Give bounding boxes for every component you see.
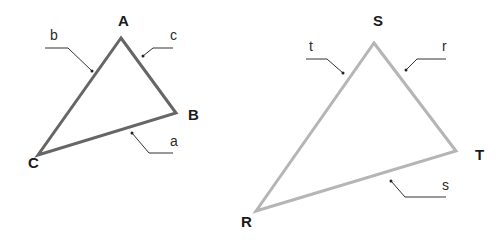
leader-dot-s — [390, 180, 393, 183]
side-label-t: t — [309, 38, 313, 54]
leader-line-b — [45, 48, 92, 71]
vertex-label-r: R — [241, 213, 252, 230]
vertex-label-a: A — [118, 12, 129, 29]
leader-line-t — [306, 59, 343, 73]
vertex-label-c: C — [28, 154, 39, 171]
leader-line-c — [143, 48, 173, 56]
side-label-b: b — [50, 27, 58, 43]
vertex-label-b: B — [188, 106, 199, 123]
leader-line-s — [391, 181, 446, 197]
leader-dot-b — [91, 70, 94, 73]
vertex-label-t: T — [475, 146, 484, 163]
leader-line-r — [406, 59, 446, 70]
triangle-abc: ABC bca — [28, 12, 199, 171]
side-label-r: r — [442, 38, 447, 54]
leader-dot-c — [142, 55, 145, 58]
vertex-label-s: S — [373, 12, 383, 29]
triangles-diagram: ABC bca STR trs — [0, 0, 503, 243]
triangle-rst-outline — [256, 43, 456, 211]
leader-dot-t — [342, 72, 345, 75]
side-label-s: s — [442, 177, 449, 193]
leader-dot-r — [405, 69, 408, 72]
leader-line-a — [132, 133, 173, 153]
leader-dot-a — [131, 132, 134, 135]
side-label-c: c — [170, 27, 177, 43]
side-label-a: a — [170, 133, 178, 149]
triangle-abc-outline — [38, 38, 176, 155]
triangle-rst: STR trs — [241, 12, 484, 230]
